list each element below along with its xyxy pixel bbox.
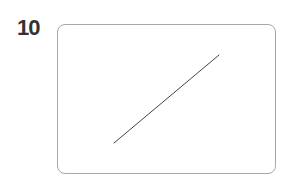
line-drawing <box>0 0 296 192</box>
diagonal-line <box>114 55 219 143</box>
